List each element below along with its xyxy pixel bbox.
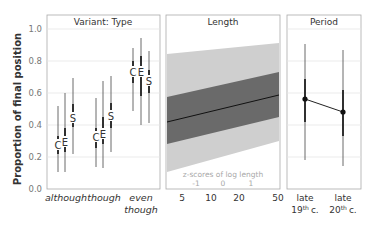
point-label-s: S <box>146 76 152 87</box>
x-label-late: late <box>334 193 352 203</box>
data-point <box>302 96 307 101</box>
z-score-label: z-scores of log length <box>183 170 264 179</box>
y-tick: 0.6 <box>28 88 42 98</box>
point-label-e: E <box>62 137 68 148</box>
point-label-c: C <box>55 140 62 151</box>
y-ticks: 0.0 0.2 0.4 0.6 0.8 1.0 <box>28 24 42 194</box>
y-tick: 1.0 <box>28 24 42 34</box>
chart-figure: Proportion of final position 0.0 0.2 0.4… <box>0 0 380 226</box>
point-label-c: C <box>130 67 137 78</box>
point-label-e: E <box>100 129 106 140</box>
x-tick: 50 <box>272 193 284 203</box>
y-tick: 0.2 <box>28 152 42 162</box>
data-point <box>340 109 345 114</box>
z-tick: -1 <box>192 179 200 188</box>
x-label-although: although <box>45 192 87 203</box>
x-label-19th: 19thc. <box>291 204 318 215</box>
y-axis-label: Proportion of final position <box>12 33 23 185</box>
panel-title: Length <box>207 17 238 27</box>
panel-period: Period late late 19thc. 20thc. <box>287 15 361 215</box>
y-tick: 0.8 <box>28 56 42 66</box>
x-label-late: late <box>296 193 314 203</box>
x-label-20th: 20thc. <box>329 204 356 215</box>
x-label-though: though <box>87 192 121 203</box>
x-label-though-2: though <box>124 204 158 215</box>
z-tick: 1 <box>249 179 254 188</box>
x-tick: 20 <box>233 193 245 203</box>
point-label-c: C <box>93 132 100 143</box>
y-tick: 0.4 <box>28 120 42 130</box>
point-label-s: S <box>70 113 76 124</box>
x-label-even: even <box>129 192 152 203</box>
panel-variant-type: Variant: Type C E S C <box>45 15 160 215</box>
panel-title: Variant: Type <box>74 17 133 27</box>
panel-title: Period <box>310 17 338 27</box>
x-tick: 5 <box>179 193 185 203</box>
point-label-s: S <box>108 111 114 122</box>
x-tick: 10 <box>205 193 217 203</box>
z-tick: 0 <box>221 179 226 188</box>
point-label-e: E <box>138 67 144 78</box>
panel-length: Length z-scores of log length -1 0 1 5 1… <box>166 15 284 203</box>
y-tick: 0.0 <box>28 184 42 194</box>
